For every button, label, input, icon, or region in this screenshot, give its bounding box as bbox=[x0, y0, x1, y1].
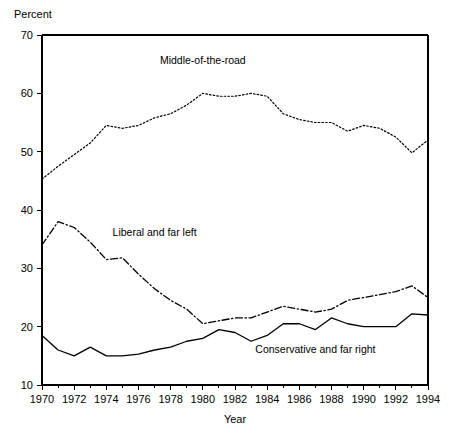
series-label-middle-of-the-road: Middle-of-the-road bbox=[160, 54, 246, 66]
x-tick-label: 1986 bbox=[287, 393, 311, 405]
line-chart: 1020304050607019701972197419761978198019… bbox=[0, 0, 449, 440]
y-axis-title: Percent bbox=[14, 8, 52, 20]
x-tick-label: 1988 bbox=[319, 393, 343, 405]
series-line-middle-of-the-road bbox=[42, 93, 428, 179]
x-tick-label: 1976 bbox=[126, 393, 150, 405]
x-tick-label: 1982 bbox=[223, 393, 247, 405]
y-tick-label: 30 bbox=[21, 262, 33, 274]
y-tick-label: 50 bbox=[21, 146, 33, 158]
series-line-liberal-and-far-left bbox=[42, 222, 428, 324]
x-tick-label: 1990 bbox=[351, 393, 375, 405]
x-tick-label: 1980 bbox=[191, 393, 215, 405]
x-tick-label: 1970 bbox=[30, 393, 54, 405]
x-tick-label: 1978 bbox=[158, 393, 182, 405]
x-tick-label: 1984 bbox=[255, 393, 279, 405]
x-tick-label: 1992 bbox=[384, 393, 408, 405]
chart-figure: 1020304050607019701972197419761978198019… bbox=[0, 0, 449, 440]
y-tick-label: 10 bbox=[21, 379, 33, 391]
y-tick-label: 70 bbox=[21, 29, 33, 41]
x-axis-title: Year bbox=[224, 413, 247, 425]
x-tick-label: 1974 bbox=[94, 393, 118, 405]
x-tick-label: 1972 bbox=[62, 393, 86, 405]
y-tick-label: 60 bbox=[21, 87, 33, 99]
series-label-liberal-and-far-left: Liberal and far left bbox=[113, 226, 197, 238]
x-tick-label: 1994 bbox=[416, 393, 440, 405]
y-tick-label: 40 bbox=[21, 204, 33, 216]
series-label-conservative-and-far-right: Conservative and far right bbox=[255, 343, 375, 355]
y-tick-label: 20 bbox=[21, 321, 33, 333]
